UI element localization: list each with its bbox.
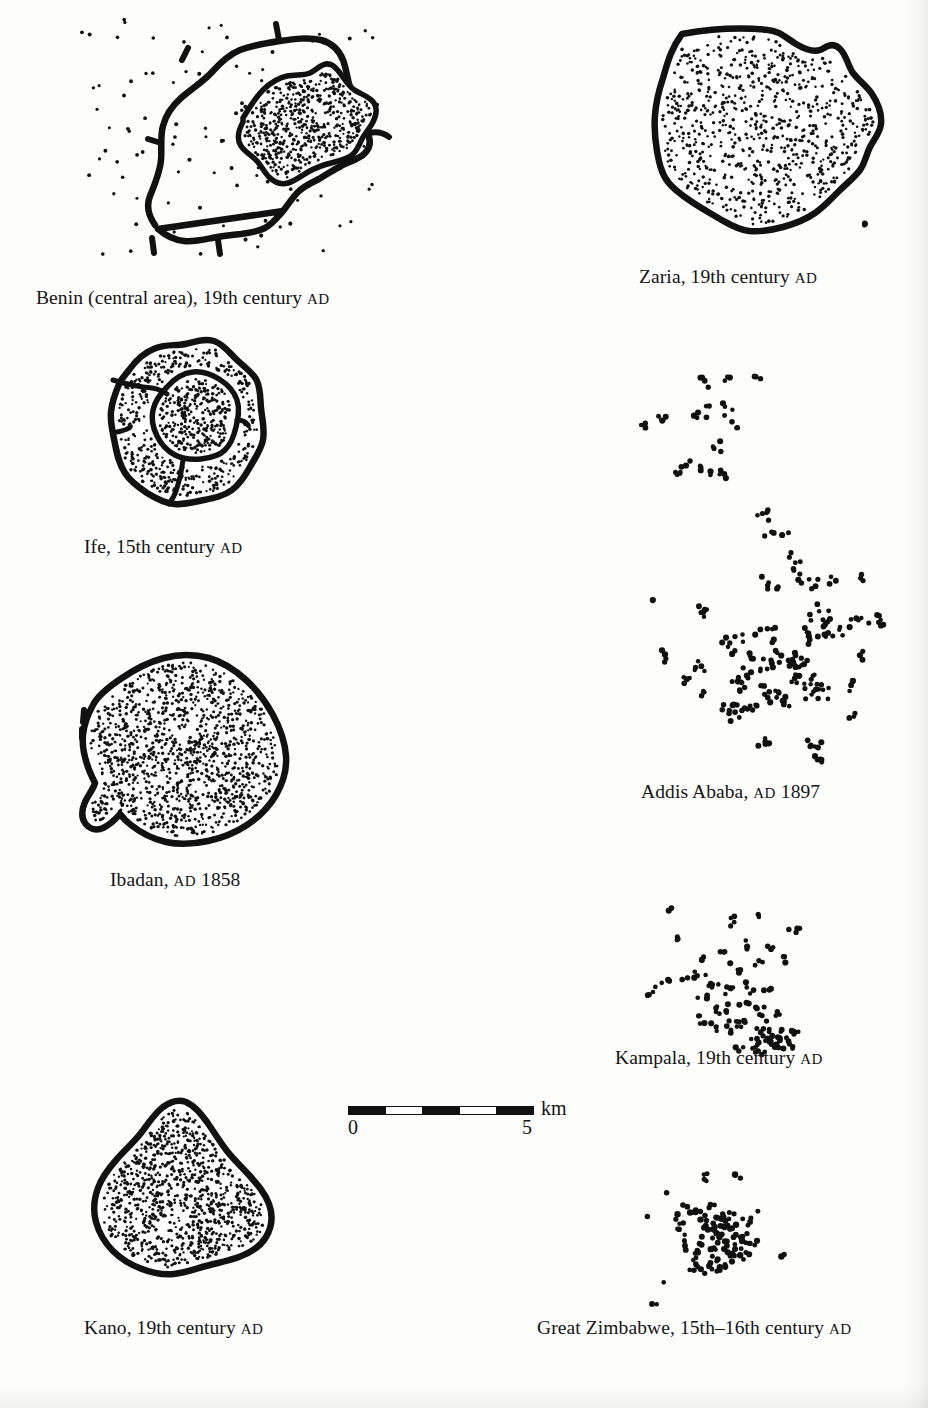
caption-addis-ababa: Addis Ababa, AD 1897 — [641, 782, 820, 802]
caption-kampala: Kampala, 19th century AD — [615, 1048, 823, 1068]
scale-seg-2 — [385, 1107, 423, 1114]
scale-bar: 0 5 km — [348, 1106, 534, 1137]
scale-seg-4 — [459, 1107, 497, 1114]
scale-seg-5 — [497, 1107, 533, 1114]
panel-addis-ababa-map — [608, 365, 908, 765]
panel-kampala-map — [608, 880, 908, 1040]
scan-bottom-shading — [0, 1386, 928, 1408]
scale-min-label: 0 — [348, 1116, 358, 1139]
panel-ibadan-map — [70, 645, 300, 860]
scale-bar-labels: 0 5 — [348, 1115, 534, 1137]
panel-ife-map — [84, 332, 284, 522]
caption-kano: Kano, 19th century AD — [84, 1318, 263, 1338]
caption-ibadan: Ibadan, AD 1858 — [110, 870, 240, 890]
scale-max-label: 5 — [522, 1116, 532, 1139]
scale-bar-track — [348, 1106, 534, 1115]
panel-zaria-map — [610, 14, 900, 264]
scale-seg-1 — [349, 1107, 385, 1114]
caption-ife: Ife, 15th century AD — [84, 537, 243, 557]
caption-zaria: Zaria, 19th century AD — [639, 267, 817, 287]
caption-benin: Benin (central area), 19th century AD — [36, 288, 329, 308]
scale-seg-3 — [423, 1107, 459, 1114]
caption-great-zimbabwe: Great Zimbabwe, 15th–16th century AD — [537, 1318, 852, 1338]
panel-benin-map — [60, 10, 390, 270]
panel-kano-map — [78, 1092, 293, 1292]
panel-great-zimbabwe-map — [608, 1160, 908, 1300]
figure-page: Benin (central area), 19th century AD Za… — [0, 0, 928, 1408]
scale-unit-label: km — [541, 1097, 567, 1120]
